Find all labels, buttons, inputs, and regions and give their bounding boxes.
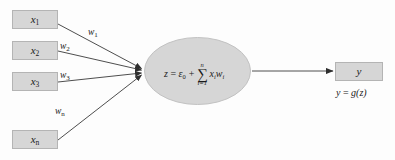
output-equation: y = g(z) bbox=[336, 88, 367, 98]
sigma-lower-limit: i=1 bbox=[198, 80, 207, 87]
formula-bias: ε0 bbox=[179, 69, 186, 79]
edge-xn-to-sum bbox=[58, 75, 142, 140]
input-node-xn-label: xn bbox=[31, 134, 40, 145]
input-node-x3-label: x3 bbox=[31, 76, 40, 87]
edge-x3-to-sum bbox=[58, 73, 142, 82]
output-equation-equals: = bbox=[343, 87, 349, 98]
weight-label-w1: w1 bbox=[88, 28, 98, 38]
weight-label-w2: w2 bbox=[60, 42, 70, 52]
input-node-x3[interactable]: x3 bbox=[12, 72, 58, 91]
weight-label-wn: wn bbox=[55, 107, 65, 117]
input-node-x2-label: x2 bbox=[31, 45, 40, 56]
formula-lhs: z bbox=[164, 69, 168, 79]
input-node-x2[interactable]: x2 bbox=[12, 41, 58, 60]
neuron-diagram-canvas: x1 x2 x3 xn w1 w2 w3 wn z = ε0 + n ∑ bbox=[0, 0, 395, 160]
output-equation-lhs: y bbox=[336, 87, 340, 98]
edge-x1-to-sum bbox=[58, 24, 142, 69]
output-node-y[interactable]: y bbox=[335, 62, 383, 81]
formula-sigma: n ∑ i=1 bbox=[197, 62, 208, 87]
formula-term-w: wi bbox=[216, 69, 224, 79]
input-node-x1[interactable]: x1 bbox=[12, 10, 58, 29]
weight-label-w3: w3 bbox=[60, 71, 70, 81]
formula-plus: + bbox=[189, 69, 195, 79]
edge-x2-to-sum bbox=[58, 51, 142, 70]
formula-equals: = bbox=[170, 69, 176, 79]
output-node-y-label: y bbox=[357, 66, 362, 77]
output-equation-arg: (z) bbox=[356, 87, 367, 98]
input-node-xn[interactable]: xn bbox=[12, 130, 58, 149]
summation-formula: z = ε0 + n ∑ i=1 xi wi bbox=[164, 62, 224, 87]
input-node-x1-label: x1 bbox=[31, 14, 40, 25]
